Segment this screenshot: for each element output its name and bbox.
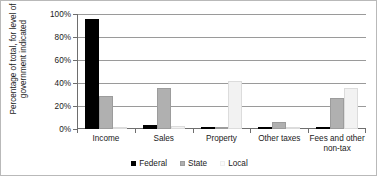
bar-group: [135, 14, 193, 129]
bar-state-other-taxes[interactable]: [272, 122, 286, 129]
x-tick-mark: [193, 129, 194, 133]
y-tick-label: 60%: [55, 56, 71, 65]
x-axis-label: Sales: [135, 134, 193, 153]
bar-federal-other-taxes[interactable]: [258, 127, 272, 129]
x-tick-mark: [308, 129, 309, 133]
legend-label: Federal: [139, 159, 167, 168]
legend-label: Local: [228, 159, 248, 168]
bar-federal-property[interactable]: [201, 127, 215, 129]
bar-set: [143, 14, 185, 129]
x-axis-label: Income: [77, 134, 135, 153]
legend-item-state[interactable]: State: [180, 159, 207, 168]
bar-set: [258, 14, 300, 129]
bar-group: [77, 14, 135, 129]
bar-state-income[interactable]: [99, 96, 113, 129]
legend-item-federal[interactable]: Federal: [131, 159, 167, 168]
bar-local-other-taxes[interactable]: [286, 127, 300, 129]
bar-group: [250, 14, 308, 129]
bar-state-fees-and-other-non-tax[interactable]: [330, 98, 344, 129]
x-tick-mark: [365, 129, 366, 133]
y-tick-label: 100%: [50, 10, 71, 19]
legend-label: State: [188, 159, 207, 168]
bar-local-income[interactable]: [113, 127, 127, 129]
bar-set: [316, 14, 358, 129]
bar-local-property[interactable]: [228, 81, 242, 129]
legend-swatch-federal-icon: [131, 161, 136, 166]
bar-federal-fees-and-other-non-tax[interactable]: [316, 127, 330, 129]
bar-set: [201, 14, 243, 129]
bar-state-sales[interactable]: [157, 88, 171, 129]
chart-container: Percentage of total, for level of govern…: [0, 0, 377, 176]
bar-group: [193, 14, 251, 129]
y-axis-title: Percentage of total, for level of govern…: [9, 0, 29, 129]
x-axis-label: Other taxes: [250, 134, 308, 153]
bar-set: [85, 14, 127, 129]
bar-state-property[interactable]: [215, 127, 229, 129]
x-axis-label: Property: [193, 134, 251, 153]
y-tick-label: 40%: [55, 79, 71, 88]
x-axis-label: Fees and other non-tax: [308, 134, 366, 153]
bar-group: [308, 14, 366, 129]
bar-local-fees-and-other-non-tax[interactable]: [344, 88, 358, 129]
y-tick-label: 0%: [59, 125, 71, 134]
plot-area: 100%80%60%40%20%0%: [77, 14, 366, 129]
bar-local-sales[interactable]: [171, 126, 185, 129]
bar-federal-sales[interactable]: [143, 125, 157, 129]
legend-swatch-local-icon: [220, 161, 225, 166]
x-tick-mark: [77, 129, 78, 133]
y-tick-label: 80%: [55, 33, 71, 42]
legend-item-local[interactable]: Local: [220, 159, 248, 168]
legend-swatch-state-icon: [180, 161, 185, 166]
x-tick-mark: [250, 129, 251, 133]
x-tick-mark: [135, 129, 136, 133]
chart-legend: FederalStateLocal: [1, 159, 378, 168]
bar-groups: [77, 14, 366, 129]
bar-federal-income[interactable]: [85, 19, 99, 129]
x-axis-labels: IncomeSalesPropertyOther taxesFees and o…: [77, 134, 366, 153]
y-tick-label: 20%: [55, 102, 71, 111]
